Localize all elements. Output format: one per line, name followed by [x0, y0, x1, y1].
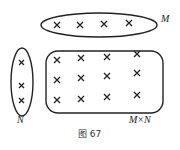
product-elements	[54, 51, 140, 103]
set-m-outline	[41, 13, 157, 37]
set-n-elements	[19, 60, 24, 103]
product-set-label: M×N	[129, 114, 151, 125]
set-n-label: N	[17, 114, 24, 125]
set-m-elements	[54, 20, 132, 28]
figure-caption: 图 67	[78, 127, 101, 140]
set-m-label: M	[161, 13, 169, 24]
set-n-outline	[11, 48, 33, 116]
